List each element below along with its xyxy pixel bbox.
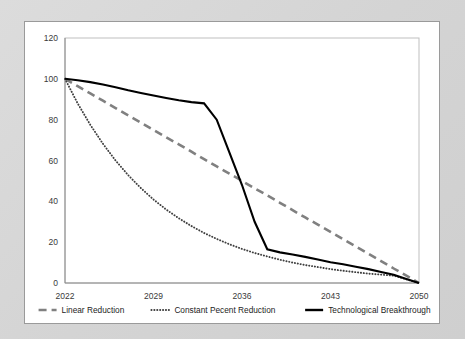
plot-area-border [65, 38, 419, 283]
y-tick-label: 60 [49, 156, 59, 166]
series-line-1 [65, 79, 419, 283]
x-tick-label: 2022 [56, 291, 75, 301]
series-lines [65, 79, 419, 283]
y-tick-label: 20 [49, 237, 59, 247]
legend-label: Technological Breakthrough [328, 305, 431, 315]
y-tick-label: 120 [44, 33, 58, 43]
x-tick-label: 2043 [321, 291, 340, 301]
legend-label: Linear Reduction [62, 305, 125, 315]
legend-label: Constant Pecent Reduction [174, 305, 275, 315]
line-chart: 020406080100120 20222029203620432050 Lin… [25, 22, 439, 323]
series-line-2 [65, 79, 419, 283]
legend-item[interactable]: Technological Breakthrough [305, 305, 431, 315]
x-tick-label: 2036 [233, 291, 252, 301]
legend-item[interactable]: Linear Reduction [39, 305, 125, 315]
y-tick-label: 100 [44, 74, 58, 84]
legend-item[interactable]: Constant Pecent Reduction [151, 305, 275, 315]
y-tick-label: 40 [49, 196, 59, 206]
y-tick-label: 80 [49, 115, 59, 125]
x-tick-label: 2050 [410, 291, 429, 301]
chart-legend: Linear ReductionConstant Pecent Reductio… [39, 305, 431, 315]
series-line-0 [65, 79, 419, 283]
x-axis-tick-labels: 20222029203620432050 [56, 291, 429, 301]
y-tick-label: 0 [53, 278, 58, 288]
chart-card: 020406080100120 20222029203620432050 Lin… [24, 21, 440, 324]
y-axis-tick-labels: 020406080100120 [44, 33, 58, 288]
x-tick-label: 2029 [144, 291, 163, 301]
